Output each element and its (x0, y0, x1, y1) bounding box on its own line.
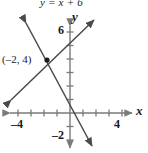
x-tick-label-4: 4 (114, 118, 120, 130)
y-tick-label-6: 6 (58, 24, 64, 36)
equation-label: y = x + 6 (40, 0, 83, 8)
y-axis-label: y (72, 10, 78, 23)
intersection-point-marker (44, 57, 49, 62)
graph-figure: y = x + 6 y x 6 –2 –4 4 (–2, 4) (0, 0, 148, 153)
y-tick-label-neg2: –2 (52, 129, 64, 141)
y-axis (67, 26, 74, 148)
point-coordinate-label: (–2, 4) (2, 54, 31, 65)
x-tick-label-neg4: –4 (11, 118, 23, 130)
x-axis-label: x (136, 104, 143, 117)
x-axis (10, 110, 132, 117)
